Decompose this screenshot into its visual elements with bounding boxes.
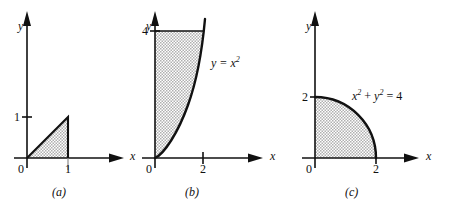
panel-caption-b: (b) — [185, 186, 199, 198]
y-axis-arrow-icon — [23, 11, 31, 26]
x-axis-label: x — [426, 150, 431, 162]
origin-label: 0 — [18, 163, 24, 175]
y-tick-label-1: 1 — [14, 111, 20, 123]
panel-c-graphic — [290, 0, 451, 208]
y-axis-arrow-icon — [151, 11, 159, 26]
y-axis-arrow-icon — [311, 11, 319, 26]
x-axis-label: x — [270, 150, 275, 162]
y-axis-label: y — [18, 20, 23, 32]
panel-a: y x 1 0 1 (a) — [0, 0, 150, 208]
panel-caption-c: (c) — [345, 186, 358, 198]
circle-eq-plus: + — [361, 89, 374, 103]
x-axis-arrow-icon — [248, 154, 263, 163]
y-axis-label: y — [306, 20, 311, 32]
origin-label: 0 — [306, 163, 312, 175]
y-tick-label-2: 2 — [302, 91, 308, 103]
x-axis-arrow-icon — [404, 154, 419, 163]
integration-regions-figure: y x 1 0 1 (a) — [0, 0, 451, 208]
x-tick-label-2: 2 — [373, 163, 379, 175]
curve-equation-label: y = x2 — [211, 57, 240, 69]
curve-equation-text: y = x — [211, 56, 236, 70]
curve-equation-exponent: 2 — [236, 55, 240, 64]
region-under-parabola — [155, 31, 203, 158]
panel-caption-a: (a) — [52, 186, 66, 198]
x-tick-label-1: 1 — [65, 163, 71, 175]
circle-equation-label: x2 + y2 = 4 — [352, 90, 402, 102]
x-axis-arrow-icon — [109, 154, 124, 163]
origin-label: 0 — [146, 163, 152, 175]
circle-eq-rhs: = 4 — [383, 89, 402, 103]
panel-b: y x 4 0 2 y = x2 (b) — [130, 0, 295, 208]
y-tick-label-4: 4 — [142, 25, 148, 37]
panel-c: y x 2 0 2 x2 + y2 = 4 (c) — [290, 0, 451, 208]
x-tick-label-2: 2 — [200, 163, 206, 175]
panel-b-graphic — [130, 0, 295, 208]
